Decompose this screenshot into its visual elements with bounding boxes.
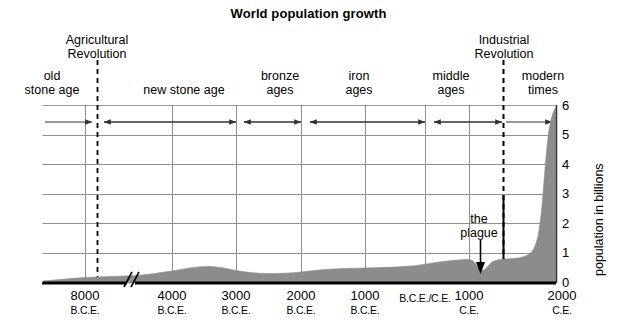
horizontal-gridlines bbox=[42, 136, 556, 254]
plot-area bbox=[0, 0, 617, 333]
chart-container: World population growth Agricultural Rev… bbox=[0, 0, 617, 333]
